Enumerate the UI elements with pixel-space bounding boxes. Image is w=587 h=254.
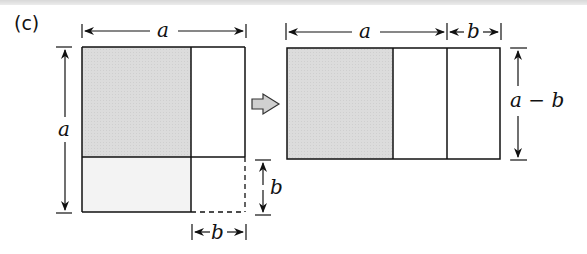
diagram-canvas [0, 0, 587, 254]
right-top-a-label: a [357, 21, 373, 41]
right-side-dimension-label: a − b [508, 90, 566, 110]
right-top-b-label: b [465, 21, 482, 41]
left-bottom-dimension-label: b [209, 222, 226, 242]
right-figure [286, 23, 527, 160]
left-top-dimension-label: a [155, 20, 171, 40]
left-figure [56, 24, 271, 240]
shaded-square [82, 47, 191, 157]
left-right-dimension-label: b [268, 177, 285, 197]
left-side-dimension-label: a [56, 119, 72, 139]
right-arrow-icon [252, 94, 279, 114]
